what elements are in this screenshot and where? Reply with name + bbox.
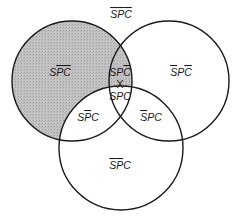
region-label-s-and-c: SPC [77,111,99,123]
region-label-s-only: SPC [49,66,71,78]
region-label-outside: SPC [110,8,132,20]
region-label-p-and-c: SPC [140,111,162,123]
region-label-p-only: SPC [170,66,192,78]
region-label-c-only: SPC [109,159,131,171]
venn-diagram: SPCSPCSPCSPCSPCSPCSPCSPC X [0,0,238,223]
x-marker: X [116,78,124,90]
region-label-s-p-c: SPC [109,90,131,102]
region-label-s-and-p: SPC [109,66,131,78]
